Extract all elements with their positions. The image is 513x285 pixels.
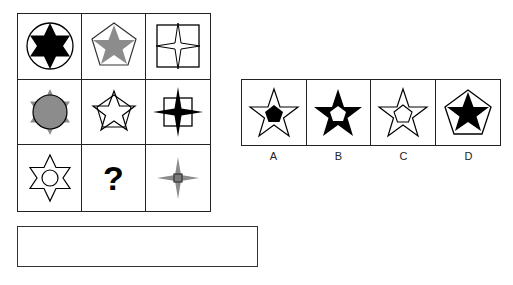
option-d[interactable]	[436, 80, 501, 145]
option-label-d: D	[436, 150, 501, 162]
grid-cell-1-3	[146, 14, 210, 80]
option-label-a: A	[241, 150, 306, 162]
grid-cell-1-2	[82, 14, 146, 80]
gray-four-point-star-square-icon	[150, 150, 206, 206]
gray-six-point-star-circle-icon	[22, 84, 78, 140]
black-star-in-pentagon-icon	[440, 85, 496, 141]
grid-cell-1-1	[18, 14, 82, 80]
grid-cell-3-3	[146, 145, 210, 211]
star-black-pentagon-icon	[246, 85, 302, 141]
option-labels: A B C D	[241, 150, 501, 162]
six-point-star-circle-inside-icon	[22, 150, 78, 206]
grid-cell-3-2: ?	[82, 145, 146, 211]
black-four-point-star-square-icon	[150, 84, 206, 140]
grid-cell-2-3	[146, 80, 210, 146]
answer-options	[241, 79, 501, 146]
question-mark: ?	[103, 159, 124, 198]
answer-input-box[interactable]	[17, 226, 258, 267]
grid-cell-2-1	[18, 80, 82, 146]
grid-cell-2-2	[82, 80, 146, 146]
star-pentagon-outline-icon	[86, 84, 142, 140]
star-in-pentagon-icon	[86, 18, 142, 74]
option-label-b: B	[306, 150, 371, 162]
option-label-c: C	[371, 150, 436, 162]
six-point-star-in-circle-icon	[22, 18, 78, 74]
puzzle-grid: ?	[17, 13, 211, 212]
four-point-star-in-square-icon	[150, 18, 206, 74]
white-star-white-pentagon-icon	[375, 85, 431, 141]
option-a[interactable]	[242, 80, 307, 145]
option-b[interactable]	[307, 80, 372, 145]
grid-cell-3-1	[18, 145, 82, 211]
black-star-white-pentagon-icon	[310, 85, 366, 141]
option-c[interactable]	[371, 80, 436, 145]
